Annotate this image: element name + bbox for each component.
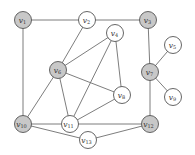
edge-v6-v10 — [23, 70, 58, 124]
node-v2: v2 — [79, 12, 96, 29]
node-label-subscript: 7 — [150, 71, 153, 77]
node-label-subscript: 1 — [23, 19, 26, 25]
node-v5: v5 — [165, 37, 182, 54]
node-label-subscript: 3 — [148, 19, 151, 25]
node-v4: v4 — [107, 25, 124, 42]
edge-v6-v8 — [58, 70, 122, 95]
node-label-subscript: 9 — [173, 96, 176, 102]
node-v3: v3 — [140, 12, 157, 29]
node-v10: v10 — [15, 116, 32, 133]
node-v12: v12 — [142, 116, 159, 133]
node-v1: v1 — [15, 12, 32, 29]
node-label-subscript: 2 — [87, 19, 90, 25]
node-v9: v9 — [165, 89, 182, 106]
node-v7: v7 — [142, 64, 159, 81]
node-label-subscript: 6 — [58, 69, 61, 75]
node-v13: v13 — [80, 132, 97, 149]
graph-diagram: v1v2v3v4v5v6v7v8v9v10v11v12v13 — [0, 0, 195, 155]
node-label-subscript: 12 — [147, 123, 153, 129]
node-label-subscript: 11 — [67, 123, 73, 129]
node-label-subscript: 10 — [20, 123, 26, 129]
edge-v4-v11 — [70, 33, 115, 124]
node-v6: v6 — [50, 62, 67, 79]
edge-v13-v12 — [88, 124, 150, 140]
node-v8: v8 — [114, 87, 131, 104]
edge-v6-v4 — [58, 33, 115, 70]
node-label-subscript: 5 — [173, 44, 176, 50]
node-label-subscript: 4 — [115, 32, 118, 38]
node-label-subscript: 13 — [85, 139, 91, 145]
edge-v4-v8 — [115, 33, 122, 95]
node-v11: v11 — [62, 116, 79, 133]
node-label-subscript: 8 — [122, 94, 125, 100]
